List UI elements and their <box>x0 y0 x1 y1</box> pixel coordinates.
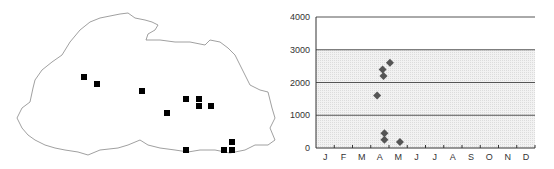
locality-marker <box>81 74 87 80</box>
x-tick-label: O <box>486 152 493 162</box>
x-tick-label: A <box>377 152 383 162</box>
x-tick-label: J <box>432 152 437 162</box>
locality-marker <box>221 147 227 153</box>
country-outline <box>17 13 275 155</box>
x-tick-label: F <box>341 152 347 162</box>
x-tick-label: J <box>414 152 419 162</box>
y-tick-label: 3000 <box>290 45 310 55</box>
locality-marker <box>196 103 202 109</box>
x-tick-label: M <box>394 152 402 162</box>
y-tick-label: 4000 <box>290 12 310 22</box>
y-tick-label: 2000 <box>290 78 310 88</box>
x-tick-label: J <box>323 152 328 162</box>
distribution-map <box>0 0 285 169</box>
x-tick-label: S <box>468 152 474 162</box>
locality-marker <box>94 81 100 87</box>
locality-marker <box>229 147 235 153</box>
locality-marker <box>229 139 235 145</box>
locality-marker <box>183 147 189 153</box>
y-tick-label: 1000 <box>290 110 310 120</box>
y-tick-label: 0 <box>305 143 310 153</box>
locality-marker <box>208 103 214 109</box>
x-tick-label: N <box>504 152 511 162</box>
locality-marker <box>196 96 202 102</box>
locality-marker <box>139 88 145 94</box>
x-tick-label: M <box>358 152 366 162</box>
scatter-chart: 01000200030004000 JFMAMJJASOND <box>290 0 554 169</box>
locality-marker <box>183 96 189 102</box>
locality-marker <box>164 110 170 116</box>
x-tick-label: D <box>523 152 530 162</box>
plot-area-shaded <box>316 50 535 148</box>
x-tick-label: A <box>450 152 456 162</box>
